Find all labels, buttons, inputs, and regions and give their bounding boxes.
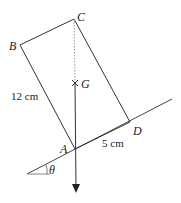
label-c: C bbox=[77, 10, 86, 24]
label-d: D bbox=[132, 124, 142, 138]
label-a: A bbox=[59, 142, 68, 156]
label-g: G bbox=[81, 77, 90, 91]
dimension-ab: 12 cm bbox=[11, 90, 39, 102]
angle-arc bbox=[46, 165, 47, 174]
arrow-down-icon bbox=[72, 184, 80, 193]
diagram-canvas: C B G A D 12 cm 5 cm θ bbox=[0, 0, 181, 203]
label-theta: θ bbox=[49, 163, 55, 177]
weight-line bbox=[75, 83, 76, 188]
label-b: B bbox=[9, 39, 17, 53]
dimension-ad: 5 cm bbox=[102, 137, 124, 149]
dashed-vertical bbox=[74, 19, 75, 82]
